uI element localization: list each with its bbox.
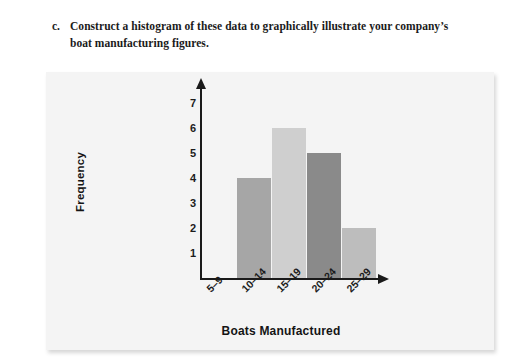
x-axis-tick-labels: 5–910–1415–1920–2425–29 (202, 282, 382, 326)
page-canvas: c. Construct a histogram of these data t… (0, 0, 528, 364)
histogram-bar (272, 128, 306, 278)
y-axis-tick-labels: 7654321 (170, 72, 196, 350)
y-axis-tick: 1 (172, 247, 196, 259)
bar-group (202, 88, 378, 278)
bar-slot (237, 88, 271, 278)
question-text: Construct a histogram of these data to g… (70, 18, 472, 52)
y-axis-tick: 2 (172, 222, 196, 234)
bar-slot (342, 88, 376, 278)
x-axis-title: Boats Manufactured (166, 324, 396, 338)
y-axis-title: Frequency (74, 122, 86, 242)
y-axis-tick: 7 (172, 97, 196, 109)
y-axis-tick: 3 (172, 197, 196, 209)
y-axis-tick: 6 (172, 122, 196, 134)
bar-slot (307, 88, 341, 278)
y-axis-tick: 4 (172, 172, 196, 184)
bar-slot (272, 88, 306, 278)
bar-slot (202, 88, 236, 278)
question-prompt: c. Construct a histogram of these data t… (52, 18, 472, 52)
question-letter: c. (52, 18, 60, 35)
figure-panel: 7654321 Frequency 5–910–1415–1920–2425–2… (46, 72, 494, 350)
y-axis-tick: 5 (172, 147, 196, 159)
histogram-chart: 7654321 Frequency 5–910–1415–1920–2425–2… (46, 72, 494, 350)
